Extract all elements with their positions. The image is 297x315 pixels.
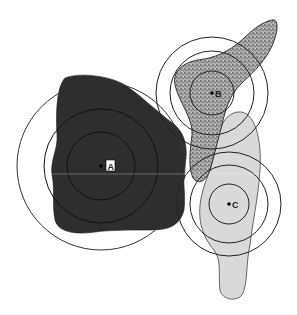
label-a: A (108, 162, 115, 172)
label-c: C (232, 200, 239, 210)
label-b: B (215, 89, 222, 99)
center-c-dot (227, 202, 231, 206)
center-b-dot (210, 91, 214, 95)
region-a-shape (52, 75, 187, 233)
zone-diagram: A B C (0, 0, 297, 315)
center-a-dot (99, 164, 103, 168)
